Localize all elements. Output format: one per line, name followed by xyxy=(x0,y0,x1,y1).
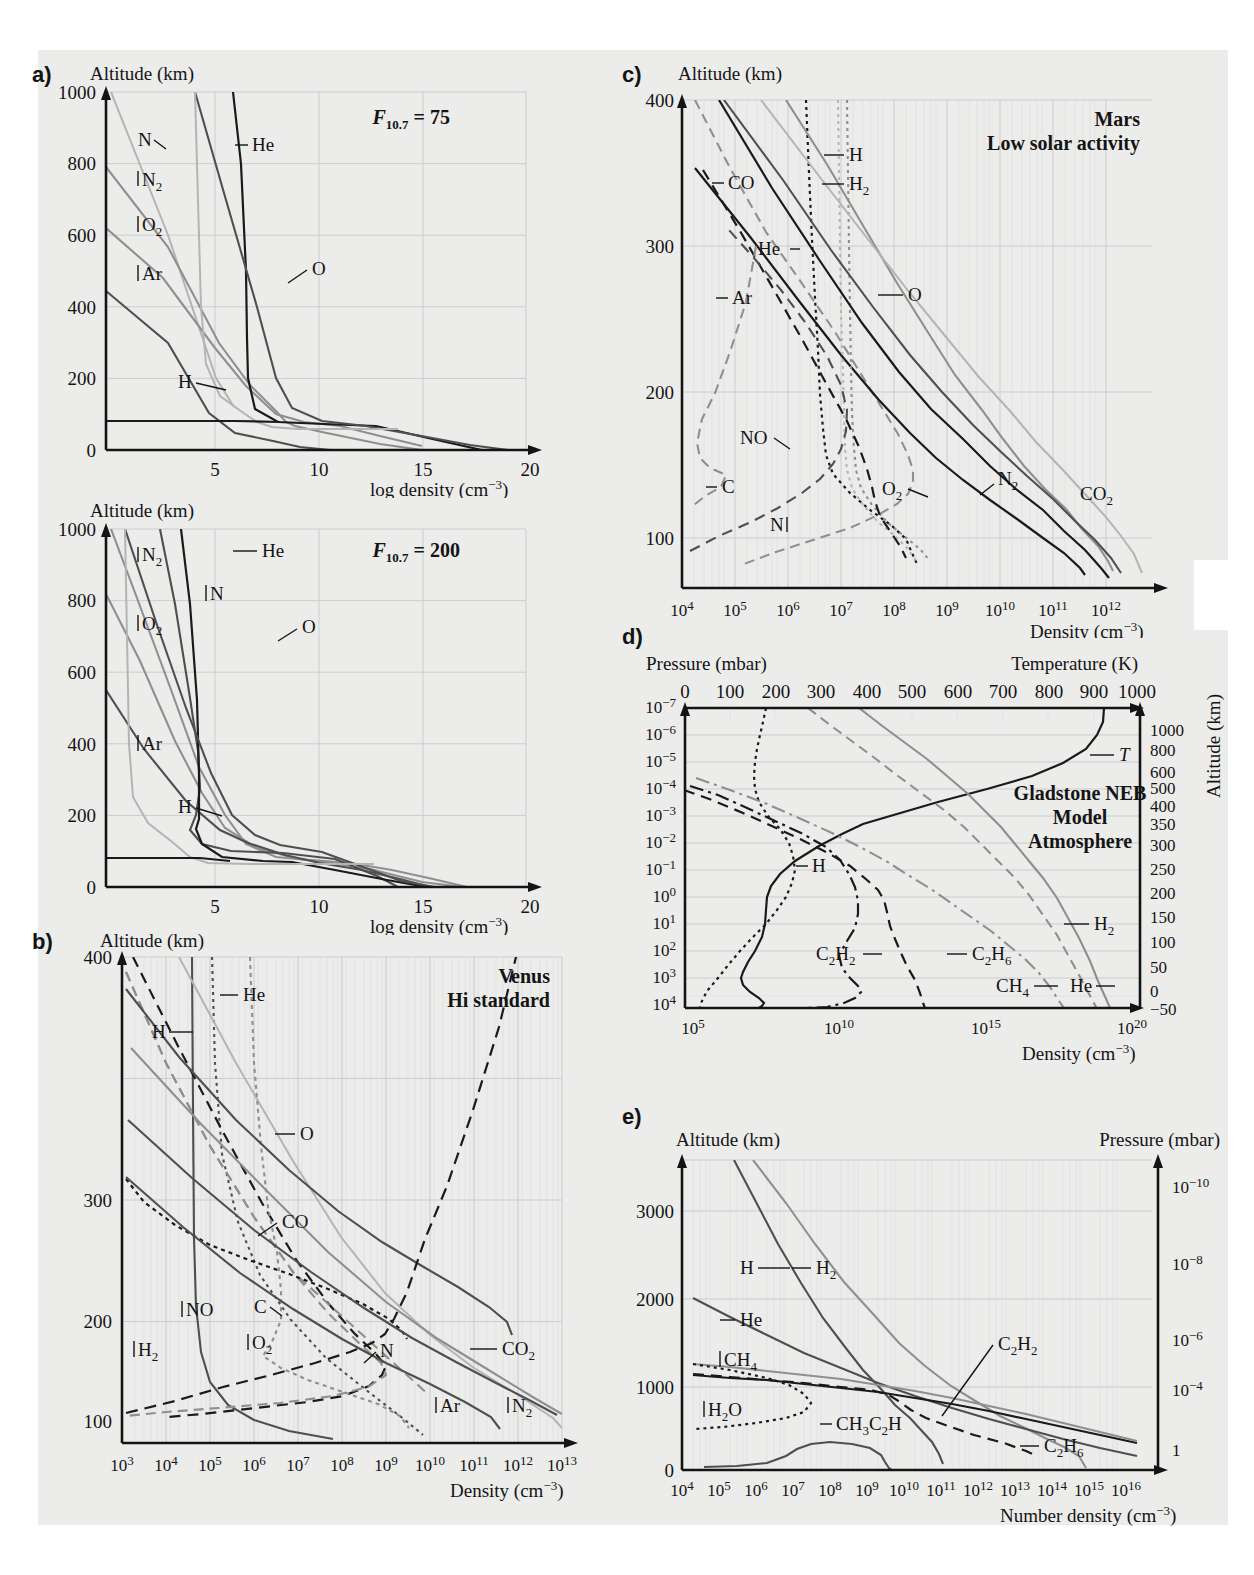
panel-b-title-1: Venus xyxy=(498,965,550,987)
svg-text:15: 15 xyxy=(414,459,433,480)
panel-e-xticks: 104 105 106 107 108 109 1010 1011 1012 1… xyxy=(670,1478,1141,1500)
figure-page: a) Altitude (km) xyxy=(0,0,1254,1575)
svg-text:T: T xyxy=(1119,744,1131,765)
svg-text:N2: N2 xyxy=(142,544,162,569)
curve-CO2 xyxy=(131,1048,562,1414)
svg-text:O2: O2 xyxy=(142,613,162,638)
panel-e: e) Altitude (km) Pressure (mbar) xyxy=(620,1098,1250,1548)
svg-text:400: 400 xyxy=(68,297,97,318)
curve-NO xyxy=(703,170,906,558)
svg-text:108: 108 xyxy=(330,1453,354,1475)
svg-text:N: N xyxy=(770,514,784,535)
panel-e-bottom-axis-label: Number density (cm−3) xyxy=(1000,1503,1176,1527)
svg-text:106: 106 xyxy=(744,1478,768,1500)
svg-text:Ar: Ar xyxy=(142,263,163,284)
svg-text:He: He xyxy=(262,540,284,561)
panel-a-top-curve-labels: N N2 O2 Ar He O H xyxy=(138,129,326,392)
svg-text:800: 800 xyxy=(68,153,97,174)
svg-text:200: 200 xyxy=(1150,884,1176,903)
panel-d-svg: d) Pressure (mbar) Temperature (K) xyxy=(620,618,1240,1088)
panel-d-top-axis-label: Temperature (K) xyxy=(1011,653,1138,675)
panel-d-title-1: Gladstone NEB xyxy=(1014,782,1147,804)
svg-text:108: 108 xyxy=(818,1478,842,1500)
svg-text:100: 100 xyxy=(646,528,675,549)
panel-b-xlabel: Density (cm−3) xyxy=(450,1478,564,1502)
svg-text:C: C xyxy=(254,1296,267,1317)
svg-text:N: N xyxy=(210,583,224,604)
curve-N xyxy=(690,229,847,551)
svg-text:106: 106 xyxy=(776,598,800,620)
svg-text:H: H xyxy=(812,855,826,876)
svg-text:H: H xyxy=(178,371,192,392)
svg-text:N: N xyxy=(138,129,152,150)
panel-c-title-2: Low solar activity xyxy=(987,132,1140,155)
svg-text:10: 10 xyxy=(310,896,329,917)
svg-text:0: 0 xyxy=(87,440,97,461)
svg-text:1012: 1012 xyxy=(1091,598,1121,620)
scan-gap-right xyxy=(1194,560,1228,630)
panel-c-title-1: Mars xyxy=(1094,108,1140,130)
svg-text:10−7: 10−7 xyxy=(645,695,676,717)
curve-N xyxy=(126,957,516,1413)
curve-T xyxy=(741,708,1104,1008)
svg-text:10−6: 10−6 xyxy=(645,722,676,744)
svg-text:Ar: Ar xyxy=(142,733,163,754)
svg-text:300: 300 xyxy=(84,1190,113,1211)
svg-text:800: 800 xyxy=(68,590,97,611)
svg-text:10−4: 10−4 xyxy=(645,776,676,798)
panel-e-right-arrow xyxy=(1153,1154,1163,1168)
svg-text:1015: 1015 xyxy=(971,1016,1001,1038)
panel-b-xticks: 103 104 105 106 107 108 109 1010 1011 10… xyxy=(110,1453,577,1475)
svg-text:NO: NO xyxy=(186,1299,213,1320)
svg-text:100: 100 xyxy=(653,884,677,906)
panel-b-xarrow xyxy=(564,1438,578,1448)
svg-text:H: H xyxy=(740,1257,754,1278)
svg-text:N2: N2 xyxy=(998,468,1018,493)
svg-text:O: O xyxy=(302,616,316,637)
curve-N2 xyxy=(128,1120,557,1415)
svg-text:He: He xyxy=(758,238,780,259)
svg-text:600: 600 xyxy=(68,225,97,246)
panel-e-right-ticks: 10−10 10−8 10−6 10−4 1 xyxy=(1172,1175,1209,1460)
panel-b-yarrow xyxy=(117,951,127,965)
svg-text:5: 5 xyxy=(210,459,220,480)
svg-text:H: H xyxy=(152,1021,166,1042)
panel-d-bottomarrow xyxy=(1130,1003,1144,1013)
svg-text:Ar: Ar xyxy=(732,287,753,308)
svg-text:1013: 1013 xyxy=(1000,1478,1030,1500)
svg-text:104: 104 xyxy=(670,1478,694,1500)
svg-text:1011: 1011 xyxy=(926,1478,956,1500)
panel-d-temp-ticks: 0 100 200 300 400 500 600 700 800 900 10… xyxy=(680,681,1156,702)
curve-CH3C2H xyxy=(704,1442,892,1470)
svg-text:O2: O2 xyxy=(882,478,902,503)
panel-letter-e: e) xyxy=(622,1104,642,1129)
panel-c-yarrow xyxy=(677,94,687,108)
panel-c: c) Altitude (km) xyxy=(620,58,1240,638)
svg-text:108: 108 xyxy=(882,598,906,620)
svg-text:400: 400 xyxy=(1150,797,1176,816)
svg-text:O: O xyxy=(300,1123,314,1144)
svg-text:109: 109 xyxy=(935,598,959,620)
svg-text:1013: 1013 xyxy=(547,1453,577,1475)
curve-O xyxy=(786,100,1113,571)
svg-text:10−5: 10−5 xyxy=(645,749,676,771)
svg-text:Ar: Ar xyxy=(440,1395,461,1416)
panel-a-bottom-annotation: F10.7 = 200 xyxy=(372,539,461,565)
curve-H-plateau xyxy=(106,421,280,422)
panel-d-altitude-ticks: 1000 800 600 500 400 350 300 250 200 150… xyxy=(1150,721,1184,1019)
panel-b-title-2: Hi standard xyxy=(447,989,550,1011)
svg-text:N2: N2 xyxy=(142,169,162,194)
curve-N2 xyxy=(724,100,1121,573)
svg-text:1012: 1012 xyxy=(503,1453,533,1475)
curve-C2H6 xyxy=(693,1374,1037,1456)
panel-d-curves xyxy=(684,708,1110,1009)
svg-text:105: 105 xyxy=(723,598,747,620)
curve-C2H6 xyxy=(684,790,925,1008)
svg-text:1016: 1016 xyxy=(1111,1478,1142,1500)
svg-text:CO2: CO2 xyxy=(502,1338,535,1363)
panel-letter-b: b) xyxy=(32,929,53,954)
panel-letter-a: a) xyxy=(32,62,52,87)
svg-text:200: 200 xyxy=(646,382,675,403)
svg-text:C2H2: C2H2 xyxy=(998,1333,1037,1358)
panel-d-title-3: Atmosphere xyxy=(1028,830,1132,853)
